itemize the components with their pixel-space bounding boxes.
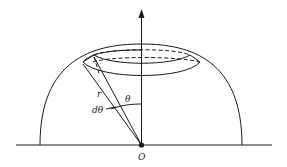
origin-label: O [138,152,146,162]
dtheta-label: dθ [92,105,104,115]
origin-point [139,142,144,147]
hemisphere-diagram: r θ dθ O [0,0,287,167]
theta-label: θ [125,94,131,104]
diagram-canvas: r θ dθ O [0,0,287,167]
band-rim-right [190,55,200,62]
axis-arrow-icon [139,9,145,18]
radius-label: r [97,89,102,99]
band-rim-left-edge [83,55,94,62]
radius-line-inner [94,57,142,145]
